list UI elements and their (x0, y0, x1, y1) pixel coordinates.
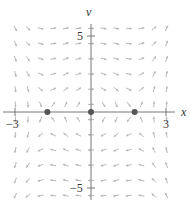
arrowhead-icon (92, 73, 94, 76)
tick-label-v-neg5: −5 (70, 182, 83, 194)
v-axis-label: v (86, 6, 91, 18)
arrowhead-icon (27, 120, 30, 122)
equilibrium-point (88, 109, 94, 115)
arrowhead-icon (92, 57, 94, 60)
equilibrium-point (132, 109, 138, 115)
x-axis-label: x (181, 106, 186, 118)
arrowhead-icon (88, 133, 90, 136)
arrowhead-icon (92, 27, 94, 30)
arrowhead-icon (92, 88, 94, 91)
arrowhead-icon (129, 27, 131, 30)
tick-label-v-5: 5 (77, 30, 83, 42)
arrowhead-icon (88, 194, 90, 197)
arrowhead-icon (54, 27, 56, 30)
arrowhead-icon (92, 42, 94, 45)
tick-label-x-3: 3 (163, 118, 169, 130)
arrowhead-icon (126, 194, 128, 197)
arrowhead-icon (14, 105, 17, 107)
arrowhead-icon (88, 118, 90, 121)
phase-plane-plot (0, 0, 190, 200)
arrowhead-icon (88, 164, 90, 167)
arrowhead-icon (165, 101, 168, 103)
arrowhead-icon (88, 179, 90, 182)
arrowhead-icon (27, 105, 30, 107)
arrowhead-icon (153, 117, 156, 119)
tick-label-x-neg3: −3 (6, 118, 19, 130)
arrowhead-icon (92, 103, 94, 106)
equilibrium-point (44, 109, 50, 115)
arrowhead-icon (50, 194, 52, 197)
arrowhead-icon (153, 101, 156, 103)
arrowhead-icon (88, 149, 90, 152)
